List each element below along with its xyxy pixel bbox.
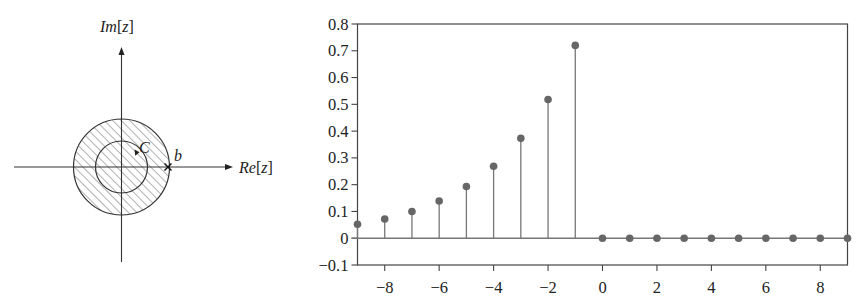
real-axis-arrow-icon bbox=[225, 164, 233, 170]
y-tick-label: 0.2 bbox=[328, 175, 349, 194]
x-tick-label: 8 bbox=[816, 278, 824, 297]
stem-marker bbox=[517, 135, 525, 143]
stem-marker bbox=[544, 96, 552, 104]
stem-marker bbox=[490, 162, 498, 170]
y-tick-label: −0.1 bbox=[319, 256, 349, 275]
y-tick-label: 0.4 bbox=[328, 122, 349, 141]
stem-marker bbox=[626, 234, 634, 242]
stem-marker bbox=[735, 234, 743, 242]
x-tick-label: 0 bbox=[598, 278, 606, 297]
plot-frame bbox=[358, 24, 848, 265]
figure: Im[z] Re[z] C b −0.100.10.20.30.40.50.60… bbox=[0, 0, 857, 308]
contour-label: C bbox=[139, 139, 150, 156]
imag-axis-label: Im[z] bbox=[99, 18, 134, 35]
x-tick-label: 6 bbox=[762, 278, 770, 297]
y-tick-label: 0.5 bbox=[328, 95, 349, 114]
stem-marker bbox=[708, 234, 716, 242]
real-axis-label: Re[z] bbox=[238, 159, 273, 176]
x-tick-label: 2 bbox=[653, 278, 661, 297]
stem-marker bbox=[789, 234, 797, 242]
stem-marker bbox=[680, 234, 688, 242]
x-tick-label: −8 bbox=[376, 278, 394, 297]
stem-marker bbox=[653, 234, 661, 242]
y-tick-label: 0.6 bbox=[328, 68, 349, 87]
x-tick-label: −4 bbox=[485, 278, 503, 297]
z-plane-diagram: Im[z] Re[z] C b bbox=[14, 18, 273, 262]
y-tick-label: 0 bbox=[340, 229, 348, 248]
y-tick-label: 0.3 bbox=[328, 148, 349, 167]
stem-marker bbox=[354, 220, 362, 228]
y-tick-label: 0.1 bbox=[328, 202, 349, 221]
stem-marker bbox=[816, 234, 824, 242]
stem-marker bbox=[435, 197, 443, 205]
stem-marker bbox=[381, 215, 389, 223]
stem-marker bbox=[408, 208, 416, 216]
imag-axis-arrow-icon bbox=[119, 47, 125, 55]
y-tick-label: 0.8 bbox=[328, 15, 349, 34]
stem-marker bbox=[599, 234, 607, 242]
stem-marker bbox=[463, 183, 471, 191]
stem-marker bbox=[571, 42, 579, 50]
stem-marker bbox=[762, 234, 770, 242]
x-tick-label: −6 bbox=[430, 278, 448, 297]
x-tick-label: −2 bbox=[539, 278, 557, 297]
stem-marker bbox=[844, 234, 852, 242]
pole-label: b bbox=[174, 147, 182, 164]
y-tick-label: 0.7 bbox=[328, 41, 349, 60]
stem-plot: −0.100.10.20.30.40.50.60.70.8−8−6−4−2024… bbox=[319, 15, 852, 298]
x-tick-label: 4 bbox=[707, 278, 715, 297]
